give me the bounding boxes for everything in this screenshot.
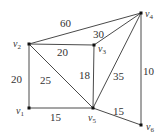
node-label-v4: v4 <box>145 8 153 21</box>
edge-v2-v4 <box>29 13 141 44</box>
edge-v3-v5 <box>93 45 94 108</box>
edge-weight-label: 20 <box>11 73 23 85</box>
node-label-v1: v1 <box>16 105 24 118</box>
node-v2 <box>28 43 31 46</box>
edge-weight-label: 35 <box>113 70 125 82</box>
node-label-v5: v5 <box>88 112 96 125</box>
edge-weight-label: 18 <box>79 69 91 81</box>
edge-weights-layer: 60203020251835101515 <box>11 17 155 123</box>
edge-weight-label: 30 <box>93 28 105 40</box>
node-v3 <box>93 44 96 47</box>
node-v5 <box>92 107 95 110</box>
node-label-v6: v6 <box>146 121 154 134</box>
node-v1 <box>28 107 31 110</box>
node-v6 <box>140 124 143 127</box>
node-label-v2: v2 <box>13 38 21 51</box>
edge-v2-v3 <box>29 44 94 45</box>
edge-weight-label: 20 <box>57 46 69 58</box>
node-label-v3: v3 <box>98 43 106 56</box>
edge-weight-label: 15 <box>50 111 62 123</box>
weighted-graph-diagram: 60203020251835101515 v1v2v3v4v5v6 <box>0 0 162 138</box>
edge-weight-label: 60 <box>60 17 72 29</box>
edge-weight-label: 10 <box>143 65 155 77</box>
node-v4 <box>140 12 143 15</box>
edge-weight-label: 15 <box>113 105 125 117</box>
edge-weight-label: 25 <box>40 74 52 86</box>
